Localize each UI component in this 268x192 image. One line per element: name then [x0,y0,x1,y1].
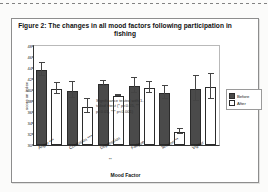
bar-after [205,87,216,145]
legend-swatch-before-icon [229,93,235,99]
bar-before [67,91,78,145]
error-bar-cap-top [100,80,106,81]
error-bar-cap-bottom [100,85,106,86]
legend: Before After [226,89,262,110]
screenshot-page: Figure 2: The changes in all mood factor… [0,0,268,192]
error-bar [179,128,180,134]
error-bar [118,94,119,96]
bar-before [129,86,140,145]
error-bar [134,77,135,92]
error-bar [103,80,104,86]
legend-swatch-after-icon [229,100,235,106]
annotation-line-3: p<0.01, *** p<0.001) [96,109,166,114]
error-bar [72,81,73,98]
error-bar-cap-bottom [54,93,60,94]
error-bar [87,98,88,112]
error-bar-cap-bottom [115,95,121,96]
page-title: Figure 2: The changes in all mood factor… [14,22,236,39]
legend-item-after: After [229,100,259,106]
bar-group: Confusion *** [65,46,96,145]
x-axis-title: Mood Factor [33,172,218,178]
error-bar [210,73,211,99]
error-bar-cap-bottom [146,92,152,93]
bar-group: Vigour [188,46,219,145]
error-bar [195,75,196,101]
error-bar [149,81,150,93]
bar-group: Depression** [96,46,127,145]
legend-label-before: Before [237,94,249,99]
bar-group: Tension ** [157,46,188,145]
error-bar-cap-bottom [177,133,183,134]
x-axis-significance-marker: ** [109,157,112,162]
bar-before [190,89,201,145]
bar-group: Anger *** [34,46,65,145]
error-bar-cap-bottom [84,112,90,113]
error-bar-cap-bottom [208,98,214,99]
significance-annotation: Significance tested with 1- tailed t tes… [96,98,166,114]
error-bar-cap-top [131,77,137,78]
error-bar-cap-top [208,73,214,74]
error-bar-cap-bottom [193,100,199,101]
error-bar-cap-top [193,75,199,76]
y-axis-title: score on index [24,82,29,110]
error-bar-cap-top [177,128,183,129]
error-bar [41,62,42,76]
bar-before [98,84,109,145]
error-bar-cap-bottom [39,75,45,76]
bar-after [144,88,155,145]
legend-item-before: Before [229,93,259,99]
error-bar-cap-bottom [69,97,75,98]
error-bar [56,82,57,94]
error-bar-cap-top [69,81,75,82]
bar-group: Fatigue [127,46,158,145]
error-bar-cap-top [146,81,152,82]
error-bar-cap-top [162,85,168,86]
error-bar-cap-bottom [131,92,137,93]
plot-inner: 48464442403836343230Anger ***Confusion *… [34,46,219,145]
legend-label-after: After [237,101,246,106]
error-bar-cap-top [84,98,90,99]
scan-artifact-dashed-line [0,3,268,4]
plot-area: 48464442403836343230Anger ***Confusion *… [33,45,220,146]
error-bar-cap-top [39,62,45,63]
error-bar-cap-top [54,82,60,83]
bar-before [36,70,47,145]
